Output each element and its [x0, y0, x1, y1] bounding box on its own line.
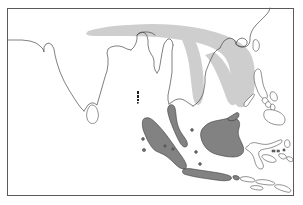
- coastline-india-east: [84, 46, 131, 111]
- islet-sunda-speck-2: [277, 150, 279, 152]
- islands-andaman-nicobar: [137, 91, 139, 104]
- island-sri-lanka: [87, 105, 99, 124]
- nicobar-islet-1: [137, 99, 139, 101]
- nicobar-islet-2: [137, 102, 139, 104]
- islet-speck-5: [195, 151, 198, 154]
- coastline-myanmar-west: [157, 39, 173, 73]
- coastline-india-west: [8, 40, 84, 111]
- light-gray-range-layer: [86, 24, 255, 107]
- andaman-islet-1: [137, 91, 139, 94]
- coastline-myanmar-andaman: [168, 45, 173, 104]
- island-samar-leyte: [270, 92, 277, 101]
- island-mindanao: [264, 110, 285, 125]
- island-sulawesi: [246, 140, 282, 169]
- islet-speck-7: [191, 129, 194, 132]
- range-bali: [233, 176, 239, 180]
- range-java: [183, 169, 232, 181]
- island-sumba: [251, 186, 263, 190]
- island-luzon: [254, 69, 267, 99]
- range-sumatra: [142, 118, 186, 169]
- island-seram: [287, 157, 293, 162]
- island-hainan: [253, 40, 259, 52]
- island-flores: [256, 180, 275, 185]
- island-halmahera: [285, 140, 291, 148]
- island-lombok-sumbawa: [240, 177, 255, 182]
- islet-speck-4: [172, 148, 174, 150]
- map-canvas: [0, 0, 303, 205]
- island-panay: [266, 102, 272, 108]
- islet-sunda-speck-3: [283, 149, 285, 151]
- range-borneo: [201, 118, 244, 157]
- islet-speck-3: [164, 145, 166, 147]
- distribution-map-figure: [0, 0, 303, 205]
- coastline-ganges-bengal: [131, 32, 157, 73]
- island-timor: [275, 185, 291, 193]
- islet-speck-1: [142, 138, 145, 141]
- islet-speck-2: [142, 148, 145, 151]
- islet-sunda-speck-1: [272, 150, 275, 152]
- islet-speck-6: [199, 163, 202, 166]
- island-sulawesi-southeast-arm: [262, 155, 276, 163]
- andaman-islet-2: [137, 95, 139, 98]
- island-buru: [279, 154, 287, 159]
